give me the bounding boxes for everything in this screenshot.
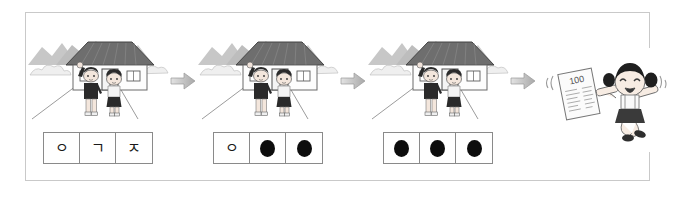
girl-standing-3 — [446, 69, 461, 116]
arrow-right-icon — [340, 71, 366, 91]
letter-box-row-3 — [383, 132, 493, 164]
arrow-right-icon — [510, 71, 536, 91]
pigtail-right — [645, 72, 658, 87]
filled-dot — [430, 140, 445, 157]
sequence-panel-3 — [366, 13, 510, 180]
scene-house-with-children-1 — [26, 19, 170, 123]
scene-girl-jumping: 100 — [536, 48, 672, 152]
scene-illustration-1 — [26, 19, 170, 123]
sequence-panel-2: ㅇ — [196, 13, 340, 180]
letter-glyph: ㅇ — [55, 141, 69, 156]
scene-illustration-3 — [366, 19, 510, 123]
letter-box-row-1: ㅇ ㄱ ㅈ — [43, 132, 153, 164]
letter-glyph: ㅇ — [225, 141, 239, 156]
scene-illustration-2 — [196, 19, 340, 123]
letter-cell: ㄱ — [80, 133, 116, 163]
arrow-2-container — [340, 13, 366, 180]
arrow-3-container — [510, 13, 536, 180]
arrow-1-container — [170, 13, 196, 180]
scene-house-with-children-3 — [366, 19, 510, 123]
hidden-letter-cell — [250, 133, 286, 163]
sequence-panel-4: 100 — [536, 13, 672, 180]
letter-box-row-2: ㅇ — [213, 132, 323, 164]
letter-cell: ㅇ — [214, 133, 250, 163]
scene-house-with-children-2 — [196, 19, 340, 123]
letter-cell: ㅈ — [116, 133, 152, 163]
filled-dot — [467, 140, 482, 157]
sequence-strip: ㅇ ㄱ ㅈ — [26, 13, 649, 180]
girl-standing-1 — [106, 69, 121, 116]
filled-dot — [297, 140, 312, 157]
hidden-letter-cell — [420, 133, 456, 163]
letter-cell: ㅇ — [44, 133, 80, 163]
motion-lines-left — [547, 76, 554, 90]
arrow-right-icon — [170, 71, 196, 91]
pigtail-left — [603, 73, 615, 87]
hidden-letter-cell — [456, 133, 492, 163]
girl-jumping-illustration: 100 — [536, 48, 672, 152]
girl-standing-2 — [276, 69, 291, 116]
worksheet-root: ㅇ ㄱ ㅈ — [0, 0, 675, 201]
hidden-letter-cell — [384, 133, 420, 163]
filled-dot — [394, 140, 409, 157]
letter-glyph: ㅈ — [127, 141, 141, 156]
letter-glyph: ㄱ — [91, 141, 105, 156]
sequence-panel-1: ㅇ ㄱ ㅈ — [26, 13, 170, 180]
motion-lines-right — [660, 76, 666, 88]
skirt — [615, 109, 645, 123]
worksheet-frame: ㅇ ㄱ ㅈ — [25, 12, 650, 181]
test-paper: 100 — [558, 68, 600, 120]
filled-dot — [260, 140, 275, 157]
hidden-letter-cell — [286, 133, 322, 163]
